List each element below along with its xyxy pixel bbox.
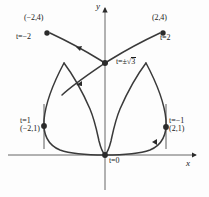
point-t-neg2 (44, 30, 49, 35)
curve-left-lobe (44, 63, 105, 155)
label-point-pos2-parameter: t=2 (160, 34, 170, 42)
label-point-pos2-coordinate: (2,4) (152, 14, 167, 22)
label-point-t1-coordinate: (−2,1) (20, 125, 40, 133)
label-point-t0-parameter: t=0 (109, 157, 119, 165)
curve-branch-lower-left (62, 63, 105, 95)
point-self-intersection (102, 60, 108, 66)
label-self-intersection-parameter: t=±√3 (116, 57, 136, 66)
label-point-neg2-coordinate: (−2,4) (24, 14, 43, 22)
label-point-neg2-parameter: t=−2 (16, 33, 31, 41)
curve-plot (0, 0, 209, 197)
point-t-1 (41, 123, 47, 129)
label-point-tneg1-coordinate: (2,1) (169, 125, 184, 133)
label-point-tneg1-group: t=−1 (2,1) (169, 117, 184, 133)
label-node-prefix: t=± (116, 57, 127, 66)
parametric-curve-figure: y x (−2,4) t=−2 (2,4) t=2 t=±√3 t=1 (−2,… (0, 0, 209, 197)
y-axis-label: y (96, 1, 100, 11)
label-point-t1-group: t=1 (−2,1) (20, 117, 40, 133)
direction-arrow-lower-right (152, 139, 157, 145)
radicand-value: 3 (131, 57, 136, 66)
point-t-0 (102, 152, 108, 158)
x-axis-label: x (186, 158, 190, 168)
square-root-icon: √3 (127, 57, 136, 66)
